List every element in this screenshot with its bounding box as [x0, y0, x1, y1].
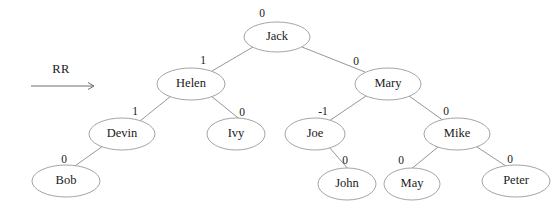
- balance-factor-may: 0: [398, 154, 404, 166]
- tree-nodes: JackHelenMaryDevinIvyJoeMikeBobJohnMayPe…: [32, 22, 550, 200]
- node-label-mike: Mike: [444, 126, 471, 140]
- balance-factor-john: 0: [342, 154, 348, 166]
- balance-factor-bob: 0: [61, 153, 67, 165]
- tree-node-peter[interactable]: Peter: [482, 165, 550, 197]
- node-label-may: May: [401, 176, 425, 190]
- rotation-label: RR: [52, 62, 70, 76]
- tree-node-ivy[interactable]: Ivy: [207, 118, 265, 150]
- node-label-bob: Bob: [56, 173, 77, 187]
- balance-factor-devin: 1: [132, 105, 138, 117]
- balance-factor-peter: 0: [507, 153, 513, 165]
- node-label-helen: Helen: [176, 76, 207, 90]
- tree-edge-mike-may: [410, 147, 438, 170]
- node-label-mary: Mary: [374, 76, 402, 90]
- node-label-devin: Devin: [107, 126, 138, 140]
- balance-factor-mike: 0: [443, 105, 449, 117]
- tree-node-may[interactable]: May: [384, 168, 440, 200]
- tree-edge-mike-peter: [477, 147, 509, 168]
- node-label-ivy: Ivy: [228, 126, 245, 140]
- tree-edge-jack-helen: [212, 47, 253, 71]
- tree-edge-mary-mike: [409, 96, 444, 121]
- tree-node-mike[interactable]: Mike: [424, 118, 490, 150]
- node-label-joe: Joe: [307, 126, 324, 140]
- balance-factor-mary: 0: [353, 55, 359, 67]
- tree-node-jack[interactable]: Jack: [244, 22, 310, 52]
- tree-edge-devin-bob: [72, 146, 103, 168]
- tree-node-joe[interactable]: Joe: [285, 118, 345, 150]
- node-label-peter: Peter: [503, 173, 530, 187]
- balance-factor-joe: -1: [318, 105, 328, 117]
- tree-edge-helen-ivy: [211, 96, 242, 121]
- tree-node-devin[interactable]: Devin: [89, 118, 155, 150]
- avl-tree-diagram: JackHelenMaryDevinIvyJoeMikeBobJohnMayPe…: [0, 0, 559, 210]
- balance-factor-ivy: 0: [239, 106, 245, 118]
- balance-factor-helen: 1: [200, 54, 206, 66]
- tree-node-bob[interactable]: Bob: [32, 165, 100, 197]
- rotation-operation-annotation: RR: [31, 62, 94, 90]
- tree-node-john[interactable]: John: [318, 168, 376, 200]
- tree-canvas: JackHelenMaryDevinIvyJoeMikeBobJohnMayPe…: [0, 0, 559, 210]
- node-label-john: John: [335, 176, 359, 190]
- balance-factor-jack: 0: [259, 7, 265, 19]
- tree-node-mary[interactable]: Mary: [355, 68, 421, 100]
- tree-edge-helen-devin: [140, 96, 171, 121]
- tree-node-helen[interactable]: Helen: [157, 68, 225, 100]
- tree-edge-mary-joe: [329, 96, 366, 121]
- node-label-jack: Jack: [266, 29, 289, 43]
